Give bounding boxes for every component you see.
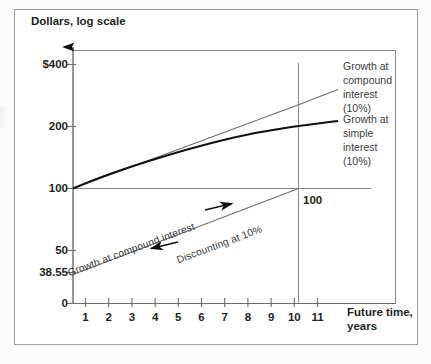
legend-compound-interest: Growth at compound interest (10%) [343,60,392,116]
x-tick-label-4: 4 [143,311,167,323]
legend-simple-interest: Growth at simple interest (10%) [343,113,389,169]
x-axis-title: Future time,years [347,306,413,333]
x-tick-label-2: 2 [97,311,121,323]
x-tick-label-10: 10 [282,311,306,323]
x-tick-label-1: 1 [74,311,98,323]
x-tick-label-9: 9 [259,311,283,323]
chart-figure: Dollars, log scale $400 200 100 50 38.55… [0,0,431,364]
x-tick-label-8: 8 [236,311,260,323]
x-tick-label-7: 7 [213,311,237,323]
x-tick-label-6: 6 [190,311,214,323]
x-tick-label-3: 3 [120,311,144,323]
x-tick-label-5: 5 [166,311,190,323]
x-axis-title-line2: years [347,320,377,332]
x-tick-label-11: 11 [306,311,330,323]
x-axis-title-line1: Future time, [347,306,413,318]
annotation-100-marker: 100 [303,194,322,208]
